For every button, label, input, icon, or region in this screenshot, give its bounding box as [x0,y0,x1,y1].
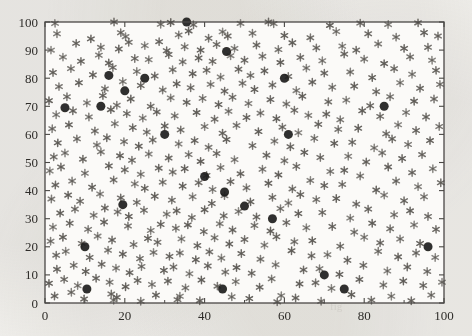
data-point-highlighted [80,242,89,251]
data-point-highlighted [280,74,289,83]
data-point-highlighted [96,102,105,111]
x-tick-label: 60 [278,308,291,323]
data-point-highlighted [220,188,229,197]
y-tick-label: 70 [25,99,38,114]
y-tick-label: 60 [25,127,38,142]
x-axis-tick-labels: 020406080100 [42,308,454,323]
y-tick-label: 90 [25,43,38,58]
y-tick-label: 50 [25,155,38,170]
y-tick-label: 40 [25,183,38,198]
data-point-highlighted [424,242,433,251]
data-point-highlighted [60,103,69,112]
y-tick-label: 30 [25,211,38,226]
x-tick-label: 40 [198,308,211,323]
data-point-highlighted [268,214,277,223]
data-point-highlighted [240,202,249,211]
data-point-highlighted [320,270,329,279]
x-tick-label: 80 [358,308,371,323]
data-point-highlighted [120,86,129,95]
data-point-highlighted [140,74,149,83]
plot-canvas: 020406080100 0102030405060708090100 [0,0,472,336]
y-axis-tick-labels: 0102030405060708090100 [19,15,39,311]
data-point-highlighted [82,284,91,293]
y-tick-label: 10 [25,267,38,282]
x-tick-label: 20 [118,308,131,323]
scatter-plot-figure: marker field scatter plot random sample … [0,0,472,336]
y-tick-label: 20 [25,239,38,254]
data-point-highlighted [340,284,349,293]
data-point-highlighted [200,172,209,181]
data-point-highlighted [160,130,169,139]
data-point-highlighted [284,130,293,139]
data-point-highlighted [118,200,127,209]
data-point-highlighted [218,284,227,293]
x-tick-label: 0 [42,308,49,323]
x-tick-label: 100 [434,308,454,323]
data-point-highlighted [104,71,113,80]
y-tick-label: 80 [25,71,38,86]
y-tick-label: 0 [32,296,39,311]
y-tick-label: 100 [19,15,39,30]
data-point-highlighted [380,102,389,111]
data-point-highlighted [222,47,231,56]
